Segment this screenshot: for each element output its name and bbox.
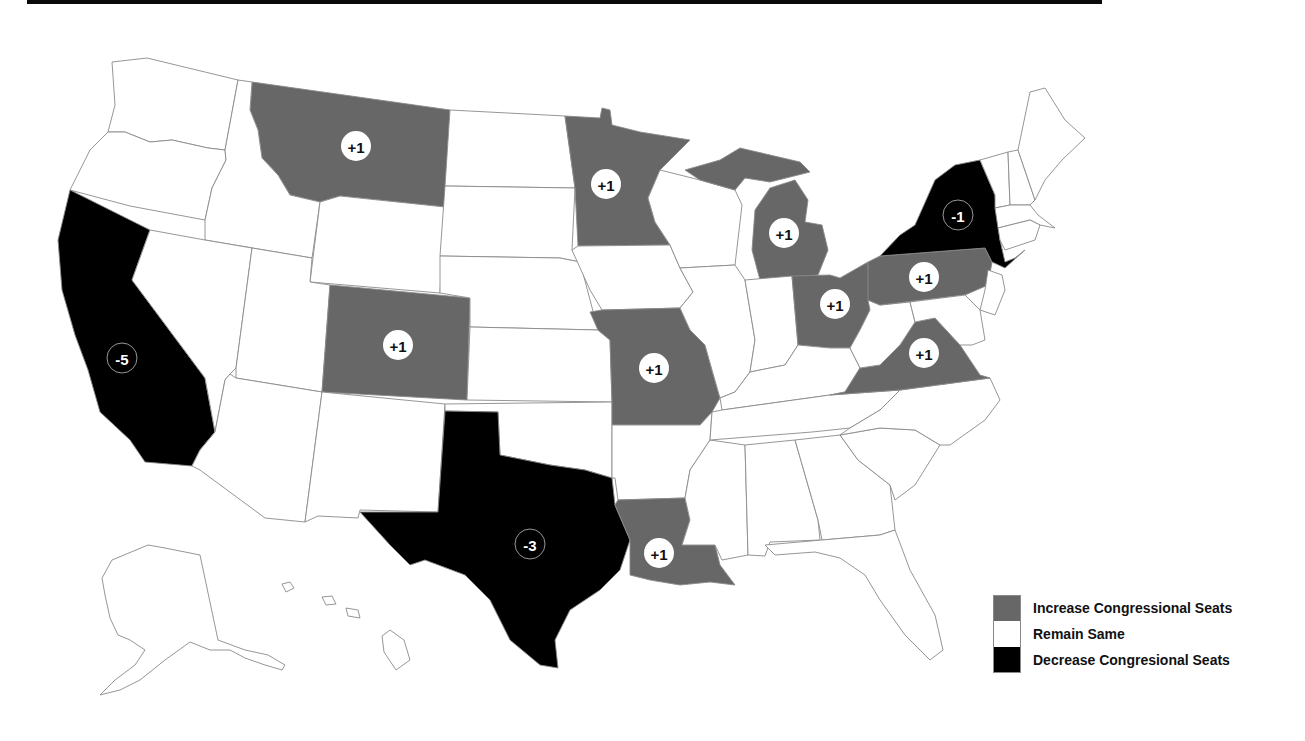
badge-label: -3 [523,537,536,554]
legend-swatch-increase [993,595,1021,621]
legend-swatch-decrease [993,647,1021,673]
legend-label-decrease: Decrease Congresional Seats [1033,652,1230,668]
state-alaska[interactable] [100,545,285,695]
state-hawaii-1[interactable] [282,582,294,592]
legend-item-increase: Increase Congressional Seats [993,595,1232,621]
badge-texas: -3 [515,529,545,559]
badge-michigan: +1 [769,218,799,248]
badge-label: +1 [347,139,364,156]
badge-label: +1 [915,346,932,363]
badge-label: -5 [115,351,128,368]
badge-minnesota: +1 [591,169,621,199]
badge-label: +1 [645,361,662,378]
badge-label: +1 [597,177,614,194]
badge-ohio: +1 [820,289,850,319]
state-florida[interactable] [765,530,943,660]
badge-label: +1 [775,226,792,243]
badge-label: +1 [650,546,667,563]
state-new-mexico[interactable] [305,392,445,522]
badge-label: +1 [826,297,843,314]
badge-missouri: +1 [639,353,669,383]
state-hawaii-2[interactable] [322,596,336,605]
legend-swatch-remain [993,621,1021,647]
legend-item-decrease: Decrease Congresional Seats [993,647,1232,673]
badge-virginia: +1 [909,338,939,368]
state-wyoming[interactable] [310,196,445,293]
badge-california: -5 [107,343,137,373]
badge-colorado: +1 [383,330,413,360]
badge-label: +1 [915,270,932,287]
state-south-dakota[interactable] [440,186,580,262]
badge-pennsylvania: +1 [909,262,939,292]
legend-label-remain: Remain Same [1033,626,1125,642]
badge-label: +1 [389,338,406,355]
badge-montana: +1 [341,131,371,161]
state-hawaii-big[interactable] [382,630,410,670]
badge-louisiana: +1 [644,538,674,568]
state-kansas[interactable] [467,327,612,402]
state-hawaii-3[interactable] [346,608,360,618]
legend: Increase Congressional Seats Remain Same… [993,595,1232,673]
legend-label-increase: Increase Congressional Seats [1033,600,1232,616]
state-north-dakota[interactable] [445,110,575,188]
badge-label: -1 [951,208,964,225]
legend-item-remain: Remain Same [993,621,1232,647]
badge-new-york: -1 [943,200,973,230]
